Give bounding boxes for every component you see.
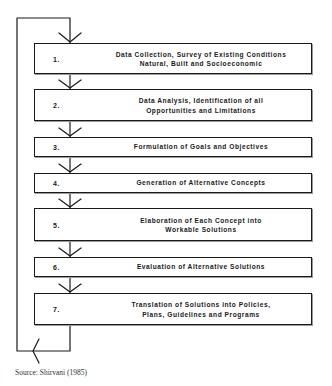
step-4-box: 4. Generation of Alternative Concepts <box>34 173 312 193</box>
step-6-label: Evaluation of Alternative Solutions <box>95 262 307 272</box>
step-3-line-1: Formulation of Goals and Objectives <box>95 142 307 152</box>
step-3-box: 3. Formulation of Goals and Objectives <box>34 137 312 157</box>
step-1-box: 1. Data Collection, Survey of Existing C… <box>34 43 312 74</box>
step-7-line-2: Plans, Guidelines and Programs <box>95 309 307 319</box>
step-2-line-2: Opportunities and Limitations <box>95 105 307 115</box>
step-7-box: 7. Translation of Solutions into Policie… <box>34 293 312 325</box>
step-5-number: 5. <box>53 221 60 228</box>
step-4-number: 4. <box>53 180 60 187</box>
step-4-label: Generation of Alternative Concepts <box>95 178 307 188</box>
step-3-number: 3. <box>53 144 60 151</box>
step-7-line-1: Translation of Solutions into Policies, <box>95 300 307 310</box>
step-2-number: 2. <box>53 102 60 109</box>
step-5-line-1: Elaboration of Each Concept into <box>95 215 307 225</box>
step-5-line-2: Workable Solutions <box>95 225 307 235</box>
step-5-box: 5. Elaboration of Each Concept into Work… <box>34 208 312 241</box>
step-5-label: Elaboration of Each Concept into Workabl… <box>95 215 307 234</box>
step-6-number: 6. <box>53 264 60 271</box>
step-1-label: Data Collection, Survey of Existing Cond… <box>95 49 307 68</box>
step-2-label: Data Analysis, Identification of all Opp… <box>95 96 307 115</box>
flowchart-diagram: 1. Data Collection, Survey of Existing C… <box>0 0 332 386</box>
step-6-line-1: Evaluation of Alternative Solutions <box>95 262 307 272</box>
step-1-line-2: Natural, Built and Socioeconomic <box>95 59 307 69</box>
step-7-label: Translation of Solutions into Policies, … <box>95 300 307 319</box>
step-2-box: 2. Data Analysis, Identification of all … <box>34 89 312 121</box>
step-7-number: 7. <box>53 306 60 313</box>
step-6-box: 6. Evaluation of Alternative Solutions <box>34 257 312 277</box>
step-4-line-1: Generation of Alternative Concepts <box>95 178 307 188</box>
step-3-label: Formulation of Goals and Objectives <box>95 142 307 152</box>
source-caption: Source: Shirvani (1985) <box>15 368 87 377</box>
step-2-line-1: Data Analysis, Identification of all <box>95 96 307 106</box>
step-1-line-1: Data Collection, Survey of Existing Cond… <box>95 49 307 59</box>
step-1-number: 1. <box>53 55 60 62</box>
